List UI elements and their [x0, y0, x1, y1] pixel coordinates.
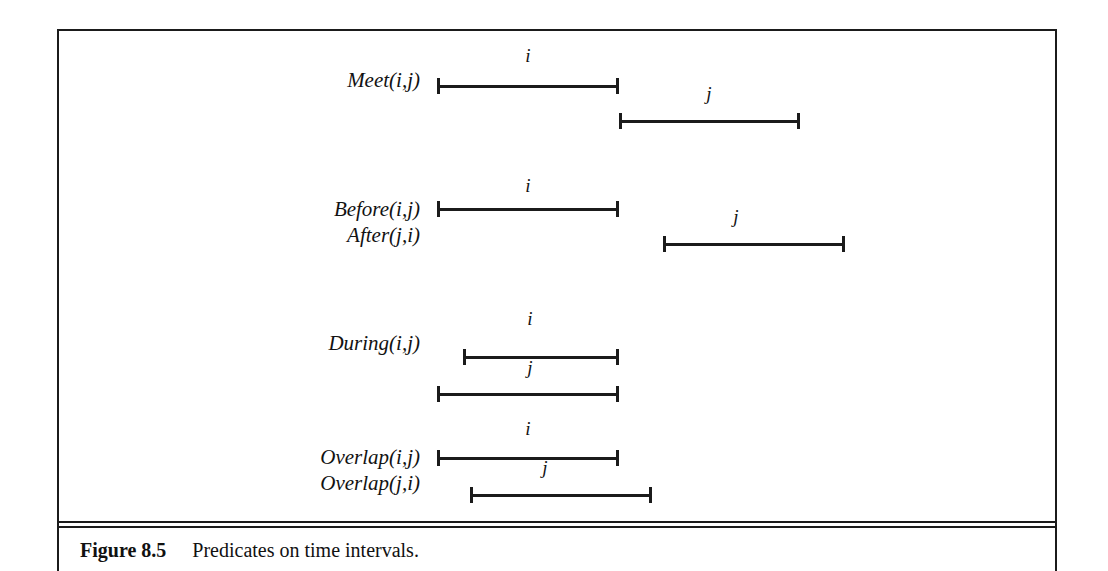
predicate-label-before-after: Before(i,j)After(j,i) [334, 196, 420, 248]
figure-page: Meet(i,j)ijBefore(i,j)After(j,i)ijDuring… [0, 0, 1108, 571]
predicate-label-line: Before(i,j) [334, 196, 420, 222]
interval-bar-during-j [437, 386, 619, 402]
predicate-label-line: After(j,i) [334, 222, 420, 248]
interval-bar-meet-j [619, 113, 800, 129]
interval-start-cap [437, 201, 440, 217]
interval-line [437, 85, 619, 88]
interval-start-cap [619, 113, 622, 129]
interval-name-meet-j: j [697, 84, 721, 103]
interval-bar-before-after-i [437, 201, 619, 217]
interval-bar-meet-i [437, 78, 619, 94]
interval-name-before-after-i: i [516, 176, 540, 195]
interval-bar-before-after-j [663, 236, 845, 252]
interval-line [437, 208, 619, 211]
interval-bar-overlap-i [437, 450, 619, 466]
interval-line [470, 494, 652, 497]
predicate-label-line: Overlap(j,i) [320, 470, 420, 496]
figure-caption-text: Predicates on time intervals. [192, 539, 419, 561]
interval-end-cap [797, 113, 800, 129]
interval-end-cap [842, 236, 845, 252]
interval-line [619, 120, 800, 123]
predicate-label-line: During(i,j) [328, 330, 420, 356]
predicate-label-during: During(i,j) [328, 330, 420, 356]
predicate-label-line: Meet(i,j) [347, 67, 420, 93]
interval-start-cap [663, 236, 666, 252]
interval-start-cap [470, 487, 473, 503]
interval-name-meet-i: i [516, 46, 540, 65]
interval-end-cap [616, 78, 619, 94]
figure-caption: Figure 8.5Predicates on time intervals. [80, 537, 1040, 563]
interval-start-cap [437, 78, 440, 94]
figure-number: Figure 8.5 [80, 539, 166, 561]
predicate-label-overlap: Overlap(i,j)Overlap(j,i) [320, 444, 420, 496]
interval-start-cap [463, 349, 466, 365]
predicate-label-meet: Meet(i,j) [347, 67, 420, 93]
interval-start-cap [437, 386, 440, 402]
interval-line [437, 457, 619, 460]
interval-end-cap [616, 201, 619, 217]
caption-divider-rule [57, 521, 1057, 528]
interval-end-cap [616, 450, 619, 466]
interval-end-cap [616, 386, 619, 402]
interval-end-cap [649, 487, 652, 503]
interval-bar-overlap-j [470, 487, 652, 503]
interval-name-during-j: j [518, 358, 542, 377]
interval-name-before-after-j: j [724, 207, 748, 226]
interval-name-during-i: i [518, 309, 542, 328]
interval-name-overlap-j: j [533, 458, 557, 477]
interval-line [437, 393, 619, 396]
interval-diagram: Meet(i,j)ijBefore(i,j)After(j,i)ijDuring… [0, 0, 1108, 521]
interval-start-cap [437, 450, 440, 466]
interval-name-overlap-i: i [516, 419, 540, 438]
predicate-label-line: Overlap(i,j) [320, 444, 420, 470]
interval-line [663, 243, 845, 246]
interval-end-cap [616, 349, 619, 365]
